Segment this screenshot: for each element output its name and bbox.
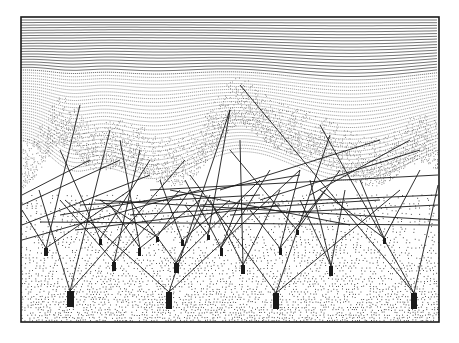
tension-line-web <box>22 85 438 293</box>
stipple-line-drawing <box>0 0 459 343</box>
anchor-blocks <box>44 230 417 309</box>
stippled-ground-texture <box>21 195 440 321</box>
